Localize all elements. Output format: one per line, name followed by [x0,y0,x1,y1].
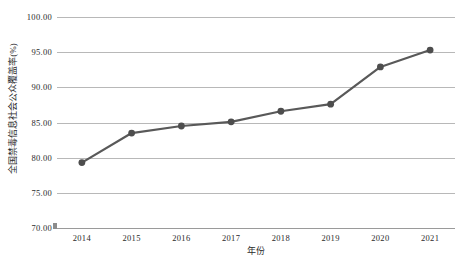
data-point-marker[interactable] [178,123,185,130]
x-axis-tick-label: 2021 [400,234,460,243]
data-point-marker[interactable] [327,101,334,108]
chart-container: 全国禁毒信息社会公众覆盖率(%) 70.0075.0080.0085.0090.… [0,0,466,264]
y-axis-tick-label: 70.00 [2,224,52,233]
y-axis-tick-label: 85.00 [2,119,52,128]
line-series-svg [57,17,455,228]
y-axis-tick-label: 90.00 [2,83,52,92]
y-axis-tick-label: 75.00 [2,189,52,198]
gridline [57,228,455,229]
y-axis-tick-label: 95.00 [2,48,52,57]
data-point-marker[interactable] [427,47,434,54]
y-axis-tick-label: 80.00 [2,154,52,163]
y-axis-tick-label: 100.00 [2,13,52,22]
x-axis-title: 年份 [57,247,455,256]
data-point-marker[interactable] [128,130,135,137]
data-point-marker[interactable] [377,64,384,71]
data-point-marker[interactable] [228,118,235,125]
data-point-marker[interactable] [277,108,284,115]
data-point-marker[interactable] [78,159,85,166]
plot-area [57,17,455,228]
y-axis-tick-labels: 70.0075.0080.0085.0090.0095.00100.00 [0,17,52,228]
